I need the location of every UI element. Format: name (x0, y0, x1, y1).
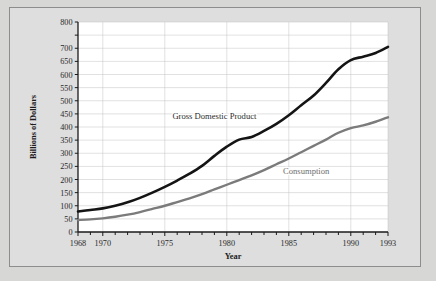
y-tick-label: 50 (64, 215, 72, 224)
x-axis-title: Year (225, 252, 242, 261)
y-tick-label: 300 (60, 149, 72, 158)
y-tick-label: 250 (60, 162, 72, 171)
series-label-gross-domestic-product: Gross Domestic Product (172, 111, 257, 121)
y-tick-label: 500 (60, 97, 72, 106)
y-tick-label: 100 (60, 202, 72, 211)
y-tick-label: 700 (60, 44, 72, 53)
series-label-consumption: Consumption (283, 166, 330, 176)
y-axis-title: Billions of Dollars (29, 94, 38, 159)
y-tick-label: 400 (60, 123, 72, 132)
y-tick-label: 650 (60, 57, 72, 66)
y-tick-label: 150 (60, 189, 72, 198)
x-tick-label: 1985 (281, 239, 297, 248)
x-tick-label: 1993 (380, 239, 396, 248)
x-tick-label: 1975 (157, 239, 173, 248)
gdp-consumption-line-chart: 0501001502002503003504004505005506006507… (0, 0, 436, 281)
y-tick-label: 600 (60, 71, 72, 80)
y-tick-label: 450 (60, 110, 72, 119)
y-tick-label: 550 (60, 84, 72, 93)
y-tick-label: 0 (68, 228, 72, 237)
x-tick-label: 1990 (343, 239, 359, 248)
y-tick-label: 200 (60, 176, 72, 185)
figure-container: 0501001502002503003504004505005506006507… (0, 0, 436, 281)
x-tick-label: 1980 (219, 239, 235, 248)
y-tick-label: 800 (60, 18, 72, 27)
x-tick-label: 1970 (95, 239, 111, 248)
y-tick-label: 350 (60, 136, 72, 145)
x-tick-label: 1968 (70, 239, 86, 248)
x-axis-tick-labels: 1968197019751980198519901993 (70, 239, 396, 248)
y-axis-tick-labels: 0501001502002503003504004505005506006507… (60, 18, 72, 237)
